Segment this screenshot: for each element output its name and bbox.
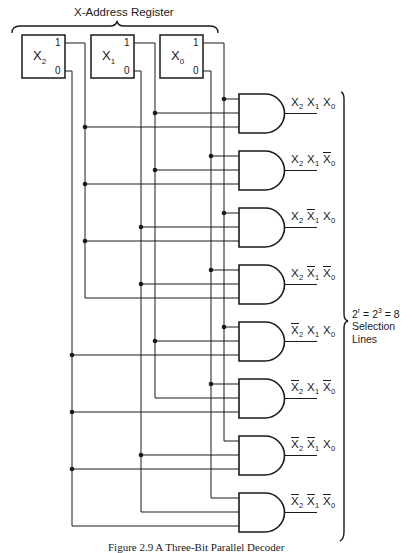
pin-one-label: 1 (55, 37, 61, 48)
selection-line-label: X2 X1 X0 (291, 267, 335, 282)
and-gate (239, 265, 285, 304)
register-x1-label: X1 (102, 48, 115, 66)
and-gate (239, 94, 285, 133)
register-title: X-Address Register (74, 6, 174, 18)
selection-formula: 2r = 23 = 8 (352, 305, 400, 320)
pin-one-label: 1 (124, 37, 130, 48)
selection-line-label: X2 X1 X0 (291, 153, 335, 168)
pin-one-label: 1 (193, 37, 199, 48)
selection-line-label: X2 X1 X0 (291, 324, 335, 339)
pin-zero-label: 0 (124, 65, 130, 76)
selection-brace (340, 92, 348, 541)
and-gate (239, 322, 285, 361)
and-gate (239, 379, 285, 418)
figure-caption: Figure 2.9 A Three-Bit Parallel Decoder (108, 541, 284, 553)
and-gate (239, 436, 285, 475)
selection-line-label: X2 X1 X0 (291, 381, 335, 396)
register-x2-label: X2 (33, 48, 46, 66)
register-x0-label: X0 (171, 48, 184, 66)
selection-line-3: Lines (352, 333, 400, 346)
selection-lines-label: 2r = 23 = 8 Selection Lines (352, 305, 400, 345)
pin-zero-label: 0 (55, 65, 61, 76)
selection-line-label: X2 X1 X0 (291, 96, 335, 111)
selection-line-label: X2 X1 X0 (291, 495, 335, 510)
and-gate (239, 208, 285, 247)
and-gate (239, 151, 284, 190)
and-gate (239, 493, 285, 532)
selection-line-label: X2 X1 X0 (291, 210, 335, 225)
and-gates (239, 94, 285, 532)
selection-line-2: Selection (352, 320, 400, 333)
register-brace (12, 21, 218, 33)
selection-line-label: X2 X1 X0 (291, 438, 335, 453)
pin-zero-label: 0 (193, 65, 199, 76)
